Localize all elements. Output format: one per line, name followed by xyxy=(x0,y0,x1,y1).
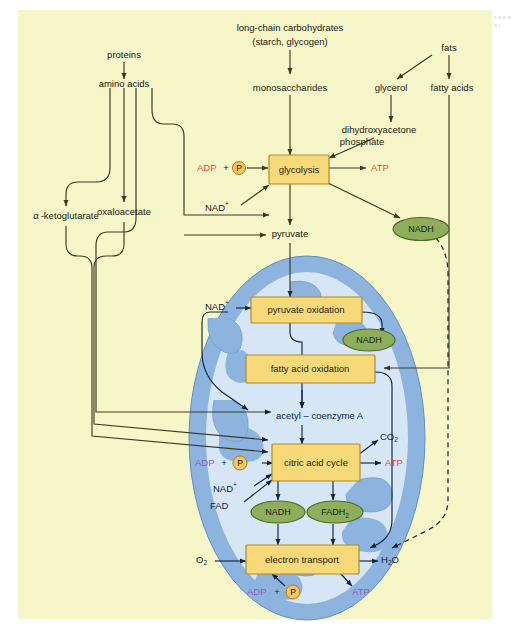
label-glycerol: glycerol xyxy=(375,82,408,93)
line-amino-acids-to-glycolysis-path xyxy=(152,88,269,215)
phosphate-letter-citric: P xyxy=(237,458,243,468)
label-oxaloacetate: oxaloacetate xyxy=(97,206,151,217)
arrow-fats-to-glycerol xyxy=(397,55,432,79)
alpha-symbol: α xyxy=(33,210,39,221)
phosphate-glyph-citric: P xyxy=(233,456,247,470)
fadh2-citric-oval: FADH2 xyxy=(307,501,363,523)
cytosol-labels: proteins amino acids long-chain carbohyd… xyxy=(33,22,473,239)
label-fad-citric: FAD xyxy=(210,500,229,511)
fatty-acid-oxidation-box[interactable]: fatty acid oxidation xyxy=(246,355,375,383)
label-monosaccharides: monosaccharides xyxy=(253,82,328,93)
glycolysis-box[interactable]: glycolysis xyxy=(269,155,329,184)
phosphate-letter-glycolysis: P xyxy=(236,163,242,173)
phosphate-glyph-etc: P xyxy=(286,585,300,599)
label-fats: fats xyxy=(441,42,457,53)
arrow-nad-to-glycolysis xyxy=(241,185,269,205)
phosphate-glyph-glycolysis: P xyxy=(233,162,246,175)
label-o2: O2 xyxy=(196,554,207,566)
label-amino-acids: amino acids xyxy=(99,78,150,89)
pyruvate-oxidation-box[interactable]: pyruvate oxidation xyxy=(251,297,362,323)
phosphate-letter-etc: P xyxy=(290,587,296,597)
label-proteins: proteins xyxy=(107,49,141,60)
label-plus-citric: + xyxy=(221,457,227,468)
label-alpha-ketoglutarate: α-ketoglutarate xyxy=(33,210,99,221)
nadh-citric-label: NADH xyxy=(265,507,291,517)
fadh2-citric-label: FADH2 xyxy=(321,507,349,518)
label-atp-glycolysis: ATP xyxy=(371,162,389,173)
label-adp-citric: ADP xyxy=(195,457,215,468)
label-acetyl-coenzyme-a: acetyl – coenzyme A xyxy=(276,410,364,421)
pathway-diagram: proteins amino acids long-chain carbohyd… xyxy=(0,0,512,629)
label-long-chain-carbohydrates: long-chain carbohydrates xyxy=(237,22,344,33)
label-atp-etc: ATP xyxy=(352,586,370,597)
line-amino-acids-to-alpha-ketoglutarate xyxy=(66,88,110,206)
label-phosphate: phosphate xyxy=(340,136,384,147)
label-starch-glycogen: (starch, glycogen) xyxy=(252,36,328,47)
label-fatty-acids: fatty acids xyxy=(431,82,474,93)
label-adp-etc: ADP xyxy=(247,586,267,597)
nadh-pyruvate-oxidation-label: NADH xyxy=(356,335,382,345)
figure-canvas: c e a a h t xyxy=(0,0,512,629)
electron-transport-label: electron transport xyxy=(265,554,339,565)
citric-acid-cycle-label: citric acid cycle xyxy=(284,457,348,468)
label-dihydroxyacetone: dihydroxyacetone xyxy=(342,124,416,135)
arrow-glycolysis-to-nadh xyxy=(328,183,400,218)
nadh-cytosol-label: NADH xyxy=(408,224,434,234)
label-atp-citric: ATP xyxy=(385,457,403,468)
pyruvate-oxidation-label: pyruvate oxidation xyxy=(267,304,344,315)
electron-transport-box[interactable]: electron transport xyxy=(246,545,359,574)
label-nad-glycolysis: NAD+ xyxy=(205,200,229,213)
nadh-cytosol-oval: NADH xyxy=(393,218,449,241)
label-plus-glycolysis: + xyxy=(223,162,229,173)
citric-acid-cycle-box[interactable]: citric acid cycle xyxy=(272,444,360,481)
label-adp-glycolysis: ADP xyxy=(197,162,217,173)
glycolysis-label: glycolysis xyxy=(279,164,320,175)
nadh-citric-oval: NADH xyxy=(251,501,305,523)
label-pyruvate: pyruvate xyxy=(272,228,308,239)
fatty-acid-oxidation-label: fatty acid oxidation xyxy=(271,363,350,374)
nadh-pyruvate-oxidation-oval: NADH xyxy=(343,329,395,351)
alpha-ketoglutarate-text: -ketoglutarate xyxy=(41,210,99,221)
label-plus-etc: + xyxy=(274,586,280,597)
